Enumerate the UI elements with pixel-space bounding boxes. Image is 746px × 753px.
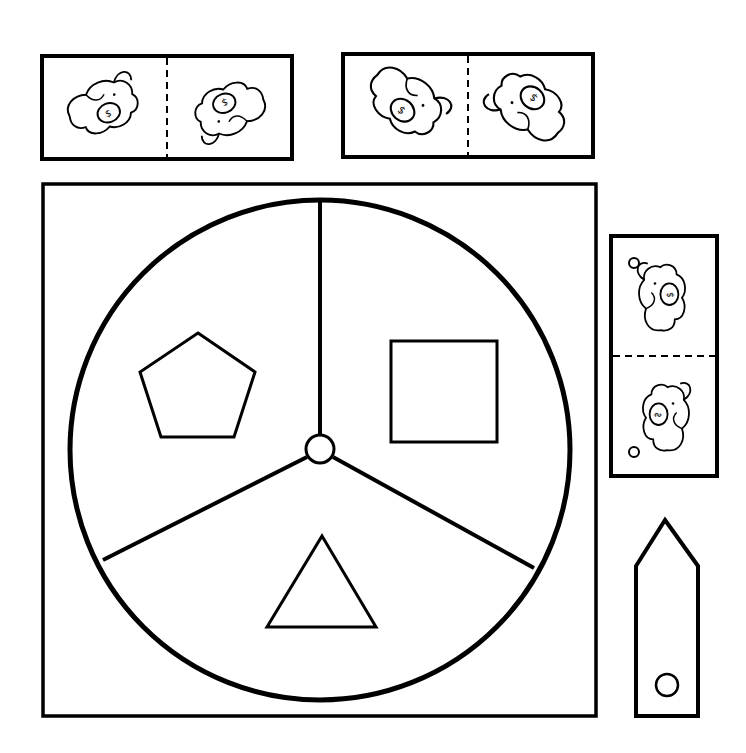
cart-wheel-icon xyxy=(629,258,639,268)
picture-card-3[interactable] xyxy=(611,236,717,476)
pivot-hole-icon xyxy=(306,435,334,463)
cart-wheel-icon xyxy=(629,447,639,457)
picture-card-1[interactable] xyxy=(42,56,292,159)
picture-card-2[interactable] xyxy=(343,54,593,157)
pointer-hole-icon xyxy=(656,674,678,696)
spinner-pointer[interactable] xyxy=(636,520,698,716)
square-shape xyxy=(391,341,497,442)
spinner-board[interactable] xyxy=(43,184,596,716)
worksheet-canvas: $ xyxy=(0,0,746,753)
